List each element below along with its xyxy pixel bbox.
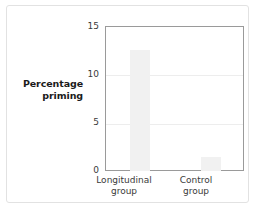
x-tick-label-longitudinal-line-1: Longitudinal: [85, 175, 163, 186]
y-axis-label-line-1: Percentage: [11, 78, 83, 90]
x-tick-label-longitudinal-line-2: group: [85, 186, 163, 197]
x-tick-label-control-group: Control group: [162, 175, 230, 196]
y-axis-label: Percentage priming: [11, 78, 83, 101]
chart-card: Percentage priming 15 10 5 0 Longitudina…: [6, 5, 249, 203]
bars-layer: [105, 26, 244, 171]
x-tick-label-longitudinal-group: Longitudinal group: [85, 175, 163, 196]
bar-control-group: [201, 157, 221, 172]
y-tick-label-5: 5: [77, 118, 99, 127]
y-tick-label-15: 15: [77, 22, 99, 31]
x-tick-label-control-line-1: Control: [162, 175, 230, 186]
y-tick-label-0: 0: [77, 166, 99, 175]
y-tick-label-10: 10: [77, 70, 99, 79]
y-axis-label-line-2: priming: [11, 90, 83, 102]
bar-longitudinal-group: [130, 50, 150, 171]
x-tick-label-control-line-2: group: [162, 186, 230, 197]
